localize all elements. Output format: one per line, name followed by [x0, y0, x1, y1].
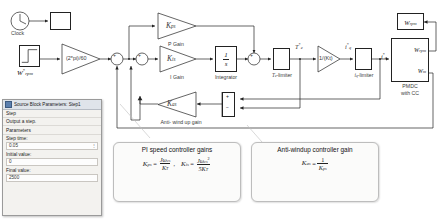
step-source-block[interactable] — [19, 45, 40, 67]
step-source-label: W*rpm — [17, 68, 33, 78]
pi-gains-callout: PI speed controller gains Kps = Jωcs KT … — [113, 142, 241, 202]
iq-limiter-block[interactable] — [355, 48, 372, 70]
step-time-value: 0.05 — [9, 143, 18, 148]
rads-gain-label: (2*pi)/60 — [66, 56, 86, 62]
p-gain-symbol: Kps — [166, 22, 176, 30]
sum3-plus-sign: + — [250, 53, 253, 58]
integrator-denominator: s — [223, 59, 229, 68]
equation-kis: Kis = Jωcs2 5KT — [181, 156, 211, 172]
sum1-plus-sign: + — [113, 53, 116, 58]
dialog-app-icon — [5, 101, 12, 108]
antiwindup-gain-title: Anti-windup controller gain — [252, 143, 378, 153]
clock-label: Clock — [11, 31, 24, 36]
dialog-title-bar[interactable]: Source Block Parameters: Step1 — [3, 100, 101, 110]
te-limiter-block[interactable] — [273, 48, 290, 70]
pi-gains-equations: Kps = Jωcs KT , Kis = Jωcs2 5KT — [114, 156, 240, 172]
subtract-minus-sign: − — [226, 104, 229, 110]
i-gain-name: I Gain — [152, 74, 202, 80]
final-value-input[interactable]: 2500 — [6, 174, 98, 183]
simulink-diagram-canvas: Clock W*rpm (2*pi)/60 Kps P Gain Kis I G… — [0, 0, 442, 220]
dialog-description: Output a step. — [3, 118, 101, 124]
dialog-title-text: Source Block Parameters: Step1 — [14, 102, 81, 107]
pmdc-output-wm: Wm — [418, 67, 426, 74]
kt-gain-label: 1/(Kt) — [319, 56, 333, 62]
pmdc-name-line2: with CC — [391, 90, 429, 96]
source-block-parameters-dialog[interactable]: Source Block Parameters: Step1 Step Outp… — [2, 99, 102, 216]
final-value-value: 2500 — [9, 175, 19, 180]
integrator-name: Integrator — [206, 74, 246, 80]
pi-gains-title: PI speed controller gains — [114, 143, 240, 153]
i-gain-symbol: Kis — [167, 55, 175, 63]
p-gain-name: P Gain — [150, 41, 202, 47]
antiwindup-gain-name: Anti- wind up gain — [151, 119, 211, 125]
integrator-block[interactable]: 1 s — [215, 46, 237, 72]
subtract-plus-sign: + — [226, 93, 229, 99]
iq-signal-label: i*q — [345, 43, 351, 51]
initial-value-input[interactable]: 0 — [6, 158, 98, 167]
wrpm-display-label: Wrpm — [398, 14, 423, 32]
antiwindup-gain-equation: Kas = 1 Kps — [252, 156, 378, 171]
step-time-expand-icon[interactable]: ⋮ — [92, 143, 96, 150]
dialog-parameters-heading: Parameters — [3, 126, 101, 133]
pmdc-input-port-label: i*q — [381, 52, 387, 60]
iq-limiter-name: iq-limiter — [344, 72, 384, 78]
final-value-label: Final value: — [3, 167, 101, 173]
step-time-label: Step time: — [3, 135, 101, 141]
te-limiter-name: Te-limiter — [262, 72, 302, 78]
wrpm-display-block[interactable]: Wrpm — [397, 13, 424, 30]
pmdc-output-wrpm: Wrpm — [414, 46, 426, 53]
initial-value-label: Initial value: — [3, 151, 101, 157]
clock-display-block[interactable] — [50, 12, 71, 30]
integrator-numerator: 1 — [223, 51, 230, 59]
equation-kas: Kas = 1 Kps — [302, 156, 328, 171]
pmdc-name-line1: PMDC — [391, 83, 429, 89]
dialog-block-type: Step — [3, 110, 101, 116]
sum2-plus-sign: + — [138, 53, 141, 58]
equation-kps: Kps = Jωcs KT , — [143, 156, 175, 171]
subtract-block[interactable]: + − — [222, 92, 235, 117]
initial-value-value: 0 — [9, 159, 12, 164]
te-signal-label: T*e — [295, 43, 303, 51]
antiwindup-gain-symbol: Kas — [167, 100, 177, 108]
antiwindup-gain-callout: Anti-windup controller gain Kas = 1 Kps — [251, 142, 379, 202]
pmdc-motor-block[interactable]: Wrpm Wm — [391, 38, 429, 82]
step-time-input[interactable]: 0.05 ⋮ — [6, 142, 98, 151]
